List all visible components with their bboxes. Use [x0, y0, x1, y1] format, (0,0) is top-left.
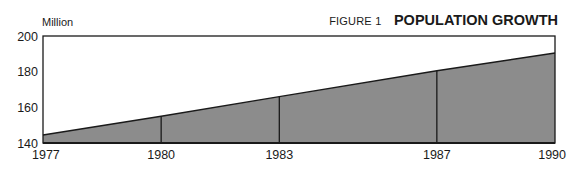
x-tick-label: 1977	[32, 148, 60, 162]
y-axis-ticks: 140160180200	[17, 30, 38, 151]
y-tick-label: 160	[17, 101, 38, 115]
y-tick-label: 180	[17, 65, 38, 79]
y-tick-label: 200	[17, 30, 38, 44]
area-fill	[43, 53, 555, 143]
population-area-chart: 140160180200 19771980198319871990	[0, 0, 569, 179]
x-axis-ticks: 19771980198319871990	[32, 148, 566, 162]
x-tick-label: 1983	[265, 148, 293, 162]
area-series	[43, 53, 555, 143]
x-tick-label: 1987	[423, 148, 451, 162]
x-tick-label: 1980	[147, 148, 175, 162]
x-tick-label: 1990	[538, 148, 566, 162]
